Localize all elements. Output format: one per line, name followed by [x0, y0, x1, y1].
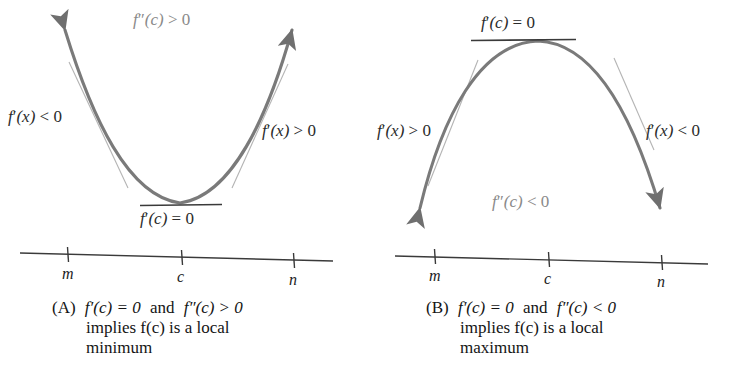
panel-a-local-minimum: f″(c) > 0 f′(x) < 0 f′(x) > 0 f′(c) = 0 …	[0, 0, 368, 387]
panel-b-right-slope-label: f′(x) < 0	[646, 122, 700, 139]
panel-a-axis-label-n: n	[289, 272, 297, 288]
panel-b-caption-tag: (B)	[426, 298, 449, 317]
panel-a-caption-expr-1: f′(c) = 0	[85, 298, 141, 317]
panel-a-artwork	[0, 0, 368, 290]
panel-a-guide-left	[69, 62, 128, 188]
panel-b-caption-line-2: implies f(c) is a local	[426, 318, 616, 338]
panel-b-caption-line-1: (B) f′(c) = 0 and f″(c) < 0	[426, 298, 616, 318]
panel-a-caption-line-3: minimum	[52, 338, 243, 358]
panel-a-right-slope-label: f′(x) > 0	[262, 122, 316, 139]
panel-a-caption-line-2: implies f(c) is a local	[52, 318, 243, 338]
panel-a-tick-m	[68, 247, 69, 262]
panel-b-vertex-slope-label: f′(c) = 0	[481, 14, 535, 31]
panel-a-second-derivative-label: f″(c) > 0	[133, 11, 190, 28]
panel-a-caption: (A) f′(c) = 0 and f″(c) > 0 implies f(c)…	[52, 298, 243, 358]
panel-a-tick-n	[294, 253, 295, 268]
panel-a-caption-line-1: (A) f′(c) = 0 and f″(c) > 0	[52, 298, 243, 318]
panel-b-tick-n	[662, 255, 663, 270]
panel-b-curve	[420, 41, 660, 208]
panel-b-tick-c	[549, 252, 550, 267]
panel-b-axis-label-n: n	[657, 274, 665, 290]
panel-a-caption-and: and	[150, 298, 175, 317]
panel-a-vertex-slope-label: f′(c) = 0	[140, 210, 194, 227]
panel-b-caption-and: and	[523, 298, 548, 317]
panel-b-caption-expr-1: f′(c) = 0	[458, 298, 514, 317]
panel-a-tick-c	[182, 250, 183, 265]
panel-a-caption-tag: (A)	[52, 298, 76, 317]
panel-b-left-slope-label: f′(x) > 0	[377, 122, 431, 139]
panel-b-caption-line-3: maximum	[426, 338, 616, 358]
second-derivative-test-figure: f″(c) > 0 f′(x) < 0 f′(x) > 0 f′(c) = 0 …	[0, 0, 736, 387]
panel-b-axis-label-c: c	[544, 271, 551, 287]
panel-b-artwork	[368, 0, 736, 290]
panel-a-axis-label-m: m	[62, 266, 74, 282]
panel-a-tangent-at-vertex	[140, 205, 222, 206]
panel-a-axis-label-c: c	[177, 269, 184, 285]
panel-a-number-line	[20, 253, 333, 261]
panel-a-curve	[65, 30, 292, 203]
panel-b-local-maximum: f′(c) = 0 f′(x) > 0 f′(x) < 0 f″(c) < 0 …	[368, 0, 736, 387]
panel-b-tick-m	[435, 249, 436, 264]
panel-a-caption-expr-2: f″(c) > 0	[184, 298, 243, 317]
panel-b-caption-expr-2: f″(c) < 0	[557, 298, 616, 317]
panel-b-guide-left	[428, 60, 478, 186]
panel-b-second-derivative-label: f″(c) < 0	[492, 193, 549, 210]
panel-b-tangent-at-vertex	[471, 40, 576, 41]
panel-a-left-slope-label: f′(x) < 0	[8, 108, 62, 125]
panel-b-caption: (B) f′(c) = 0 and f″(c) < 0 implies f(c)…	[426, 298, 616, 358]
panel-b-axis-label-m: m	[429, 268, 441, 284]
